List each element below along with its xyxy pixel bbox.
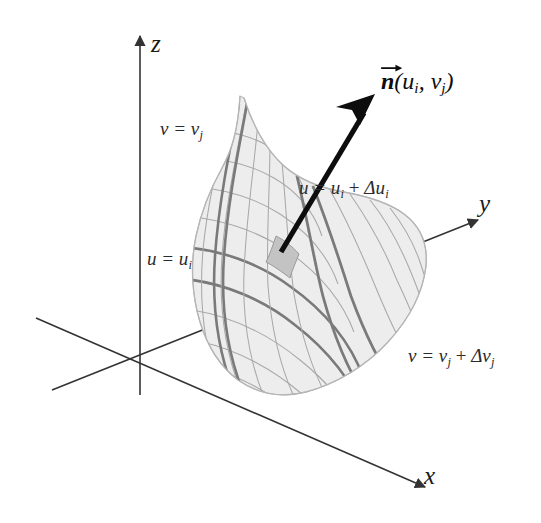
label-u-delta-sub2: i [385, 187, 388, 201]
label-v-equals-vj: v = vj [160, 119, 203, 141]
label-u-equals-ui: u = ui [147, 249, 192, 271]
vector-arg-mid: , v [419, 68, 442, 94]
label-v-delta-mid: + [451, 345, 471, 366]
label-v-delta-symbol: Δv [471, 345, 491, 366]
normal-vector-head [336, 94, 375, 125]
axis-label-x: x [424, 462, 435, 490]
vector-n-symbol: n [381, 68, 394, 95]
label-v-delta-prefix: v = v [408, 345, 447, 366]
parametric-surface [181, 96, 431, 472]
label-u-delta-symbol: Δu [364, 177, 385, 198]
vector-arrow-accent-icon [380, 61, 402, 73]
label-u-equals-ui-prefix: u = u [147, 248, 188, 269]
diagram-canvas [0, 0, 541, 523]
label-u-equals-ui-plus-delta: u = ui + Δui [299, 178, 389, 200]
vector-arg-close: ) [446, 68, 454, 94]
label-u-delta-mid: + [344, 177, 364, 198]
axis-label-y: y [479, 190, 490, 218]
label-v-equals-vj-sub: j [199, 128, 202, 142]
normal-vector-label: n (ui, vj) [381, 68, 454, 97]
label-v-equals-vj-prefix: v = v [160, 118, 199, 139]
label-v-equals-vj-plus-delta: v = vj + Δvj [408, 346, 494, 368]
label-v-delta-sub2: j [491, 355, 494, 369]
label-u-delta-prefix: u = u [299, 177, 340, 198]
surface-normal-diagram: z y x n (ui, vj) v = vj u = ui u = ui + … [0, 0, 541, 523]
axis-label-z: z [151, 30, 161, 58]
label-u-equals-ui-sub: i [189, 258, 192, 272]
